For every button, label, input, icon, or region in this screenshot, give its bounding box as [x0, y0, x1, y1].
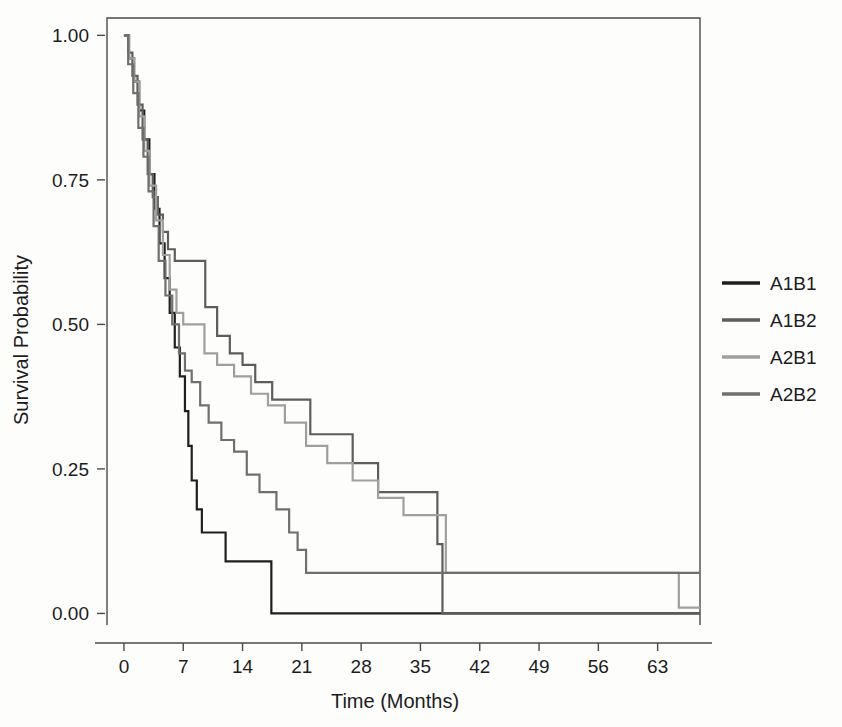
- x-tick-label: 35: [410, 656, 431, 677]
- x-tick-label: 21: [291, 656, 312, 677]
- y-axis-title: Survival Probability: [10, 255, 32, 425]
- y-tick-label: 0.75: [52, 170, 89, 191]
- x-tick-label: 14: [232, 656, 254, 677]
- plot-canvas: 071421283542495663 0.000.250.500.751.00 …: [0, 0, 842, 727]
- x-tick-label: 7: [178, 656, 189, 677]
- km-curves-group: [124, 35, 700, 613]
- legend-label-a2b2: A2B2: [770, 384, 816, 405]
- km-curve-a1b2: [124, 35, 700, 613]
- x-axis-tick-labels: 071421283542495663: [119, 656, 669, 677]
- y-tick-label: 1.00: [52, 25, 89, 46]
- y-tick-label: 0.50: [52, 314, 89, 335]
- y-tick-label: 0.25: [52, 459, 89, 480]
- legend-label-a1b2: A1B2: [770, 310, 816, 331]
- axis-tick-marks: [97, 35, 658, 651]
- x-tick-label: 42: [469, 656, 490, 677]
- legend-label-a1b1: A1B1: [770, 273, 816, 294]
- y-tick-label: 0.00: [52, 603, 89, 624]
- y-axis-tick-labels: 0.000.250.500.751.00: [52, 25, 89, 624]
- plot-panel-border: [95, 18, 712, 643]
- legend-label-a2b1: A2B1: [770, 347, 816, 368]
- x-axis-title: Time (Months): [331, 690, 459, 712]
- km-curve-a2b1: [124, 35, 700, 607]
- x-tick-label: 63: [647, 656, 668, 677]
- x-tick-label: 0: [119, 656, 130, 677]
- legend: A1B1A1B2A2B1A2B2: [722, 273, 816, 405]
- x-tick-label: 49: [528, 656, 549, 677]
- x-tick-label: 28: [351, 656, 372, 677]
- km-curve-a1b1: [124, 35, 700, 613]
- survival-chart-figure: 071421283542495663 0.000.250.500.751.00 …: [0, 0, 842, 727]
- x-tick-label: 56: [588, 656, 609, 677]
